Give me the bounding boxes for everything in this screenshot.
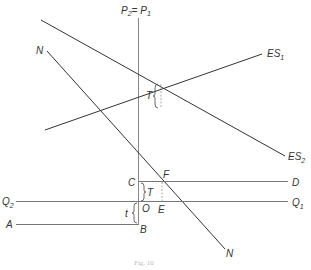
figure-caption: Fig. 10 — [134, 259, 154, 267]
es2-line — [41, 20, 285, 156]
label-a: A — [5, 219, 13, 230]
label-t-small: t — [125, 208, 129, 219]
n-line — [47, 51, 225, 249]
t-small-brace — [132, 203, 137, 223]
label-t-lower: T — [147, 187, 154, 198]
t-lower-brace — [141, 183, 146, 201]
label-t-upper: T — [146, 90, 153, 101]
label-f: F — [163, 169, 170, 180]
label-c: C — [128, 177, 136, 188]
label-price-axis: P2= P1 — [121, 5, 151, 17]
economics-diagram: P2= P1 N N ES1 ES2 T C F D T Q2 Q1 O E t… — [0, 0, 311, 270]
label-o: O — [142, 203, 150, 214]
label-q2: Q2 — [2, 196, 14, 209]
label-es1: ES1 — [267, 48, 284, 61]
label-b: B — [140, 224, 147, 235]
label-n-top: N — [36, 45, 44, 56]
label-n-bottom: N — [226, 248, 234, 259]
es1-line — [45, 54, 262, 130]
label-es2: ES2 — [288, 151, 305, 164]
t-upper-brace — [153, 84, 158, 108]
label-d: D — [292, 177, 299, 188]
label-e: E — [158, 204, 165, 215]
label-q1: Q1 — [292, 197, 304, 210]
